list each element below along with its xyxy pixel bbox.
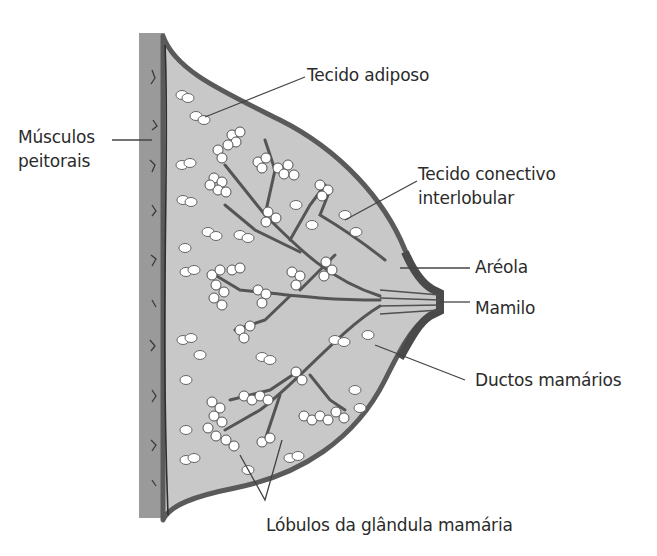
label-lobulos-glandula-mamaria: Lóbulos da glândula mamária [266, 514, 513, 536]
label-tecido-conectivo-line1: Tecido conectivo [418, 163, 556, 185]
label-tecido-conectivo-line2: interlobular [418, 187, 514, 209]
label-areola: Aréola [475, 256, 528, 278]
label-ductos-mamarios: Ductos mamários [475, 369, 621, 391]
label-musculos-peitorais-line1: Músculos [18, 126, 95, 148]
label-mamilo: Mamilo [475, 297, 535, 319]
label-tecido-adiposo: Tecido adiposo [307, 64, 429, 86]
label-musculos-peitorais-line2: peitorais [18, 150, 90, 172]
